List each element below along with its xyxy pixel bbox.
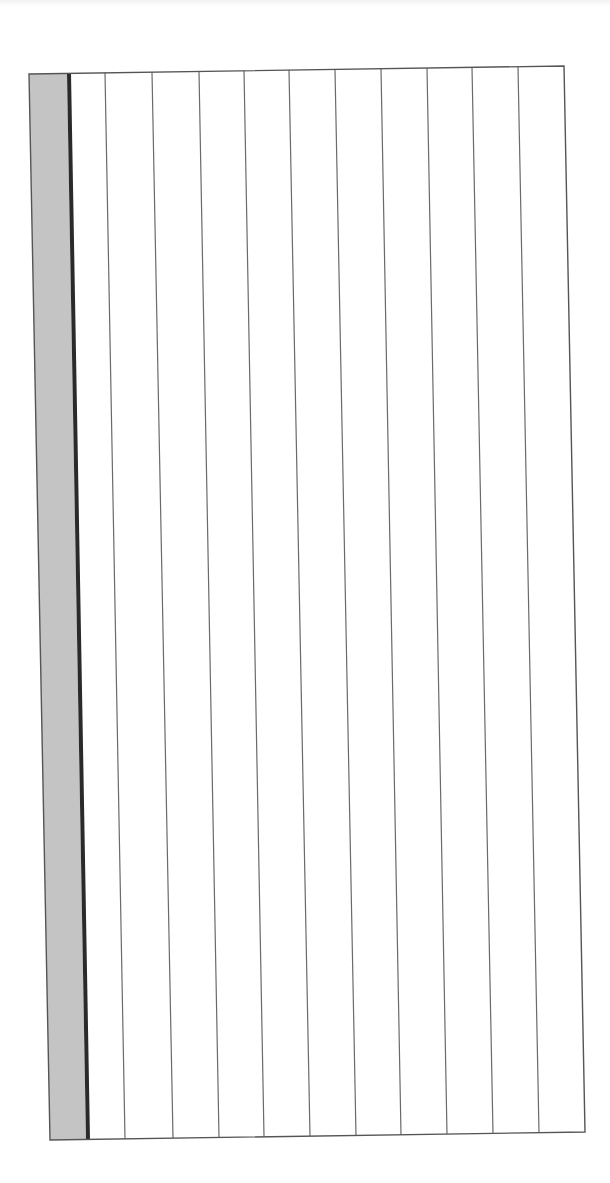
ruled-sheet xyxy=(0,0,610,1183)
